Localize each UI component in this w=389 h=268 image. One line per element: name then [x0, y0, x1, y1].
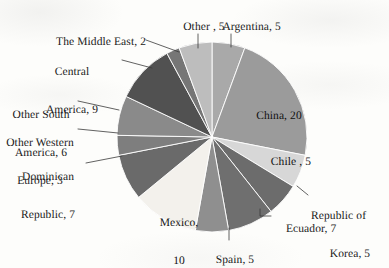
pie-chart: Other , 5 Argentina, 5 The Middle East, …: [0, 0, 389, 268]
slice-label-ecuador-text: Ecuador, 7: [286, 223, 336, 235]
slice-label-china-text: China, 20: [256, 110, 302, 122]
slice-label-spain-text: Spain, 5: [216, 254, 255, 266]
slice-label-mexico: Mexico, 10: [147, 192, 211, 268]
slice-label-argentina: Argentina, 5: [200, 8, 292, 46]
slice-label-mexico-line2: 10: [147, 255, 211, 268]
pie-slice-group: [117, 42, 307, 232]
slice-label-argentina-text: Argentina, 5: [222, 21, 280, 33]
slice-label-dominican-republic: Dominican Republic, 7: [8, 146, 88, 246]
leader-line-republic-of-korea: [297, 186, 308, 195]
leader-line-dominican-republic: [86, 156, 122, 163]
slice-label-chile-text: Chile , 5: [271, 156, 311, 168]
slice-label-chile: Chile , 5: [252, 143, 318, 181]
slice-label-republic-of-korea-line2: Korea, 5: [311, 248, 389, 261]
slice-label-central-america-line1: Central: [22, 66, 122, 79]
slice-label-mexico-line1: Mexico,: [147, 217, 211, 230]
slice-label-ecuador: Ecuador, 7: [274, 210, 354, 248]
slice-label-dominican-republic-line2: Republic, 7: [8, 209, 88, 222]
slice-label-dominican-republic-line1: Dominican: [8, 171, 88, 184]
slice-label-china: China, 20: [236, 97, 310, 135]
leader-line-central-america: [122, 60, 152, 68]
